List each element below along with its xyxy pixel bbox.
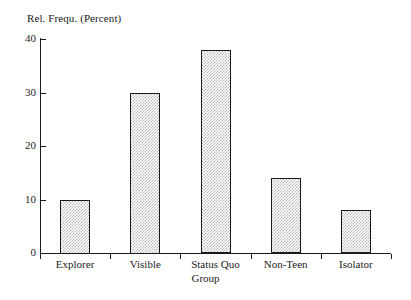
y-tick-label: 30 <box>14 87 36 98</box>
y-tick-label: 0 <box>14 247 36 258</box>
y-tick-mark <box>41 200 46 201</box>
category-label: Status Quo <box>180 258 250 270</box>
category-label: Visible <box>110 258 180 270</box>
bar <box>271 178 301 253</box>
bar <box>341 210 371 253</box>
bar <box>201 50 231 253</box>
bar-chart: Rel. Frequ. (Percent) 010203040 Explorer… <box>0 0 411 300</box>
bar <box>60 200 90 254</box>
y-tick-label: 20 <box>14 140 36 151</box>
y-tick-label: 40 <box>14 33 36 44</box>
y-tick-mark <box>41 146 46 147</box>
y-tick-mark <box>41 253 46 254</box>
x-tick-mark <box>391 254 392 259</box>
x-axis-line <box>40 253 391 254</box>
y-tick-mark <box>41 39 46 40</box>
y-tick-label-wrap: 40 <box>12 33 36 44</box>
x-axis-title: Group <box>0 272 411 284</box>
y-tick-label-wrap: 10 <box>12 194 36 205</box>
y-axis-title: Rel. Frequ. (Percent) <box>27 12 121 24</box>
category-label: Non-Teen <box>251 258 321 270</box>
y-tick-label: 10 <box>14 194 36 205</box>
category-label: Isolator <box>321 258 391 270</box>
y-tick-mark <box>41 93 46 94</box>
category-label: Explorer <box>40 258 110 270</box>
y-tick-label-wrap: 20 <box>12 140 36 151</box>
y-tick-label-wrap: 30 <box>12 87 36 98</box>
bar <box>130 93 160 254</box>
y-tick-label-wrap: 0 <box>12 247 36 258</box>
